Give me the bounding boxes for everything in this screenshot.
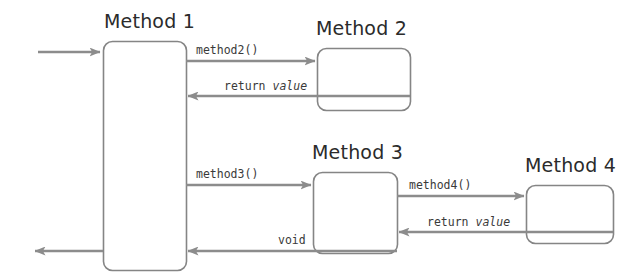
box-title-method3: Method 3 bbox=[312, 143, 403, 162]
edge-label-return-value: value bbox=[475, 215, 510, 229]
edge-label-method2-return: return value bbox=[224, 80, 307, 92]
edge-label-method3-call: method3() bbox=[196, 168, 258, 180]
edge-label-method3-return: void bbox=[278, 234, 306, 246]
diagram-vector-layer bbox=[0, 0, 641, 276]
box-method4[interactable] bbox=[527, 186, 614, 244]
edge-label-return-value: value bbox=[272, 79, 307, 93]
box-title-method1: Method 1 bbox=[104, 12, 195, 31]
sequence-diagram-canvas: Method 1 Method 2 Method 3 Method 4 meth… bbox=[0, 0, 641, 276]
box-method2[interactable] bbox=[318, 49, 411, 111]
edge-label-return-keyword: return bbox=[224, 79, 272, 93]
box-title-method2: Method 2 bbox=[316, 19, 407, 38]
edge-label-return-keyword: return bbox=[427, 215, 475, 229]
edge-label-method4-return: return value bbox=[427, 216, 510, 228]
box-method1[interactable] bbox=[104, 42, 187, 271]
edge-label-method4-call: method4() bbox=[409, 179, 471, 191]
box-method3[interactable] bbox=[314, 173, 398, 254]
edge-label-method2-call: method2() bbox=[196, 44, 258, 56]
box-title-method4: Method 4 bbox=[525, 156, 616, 175]
